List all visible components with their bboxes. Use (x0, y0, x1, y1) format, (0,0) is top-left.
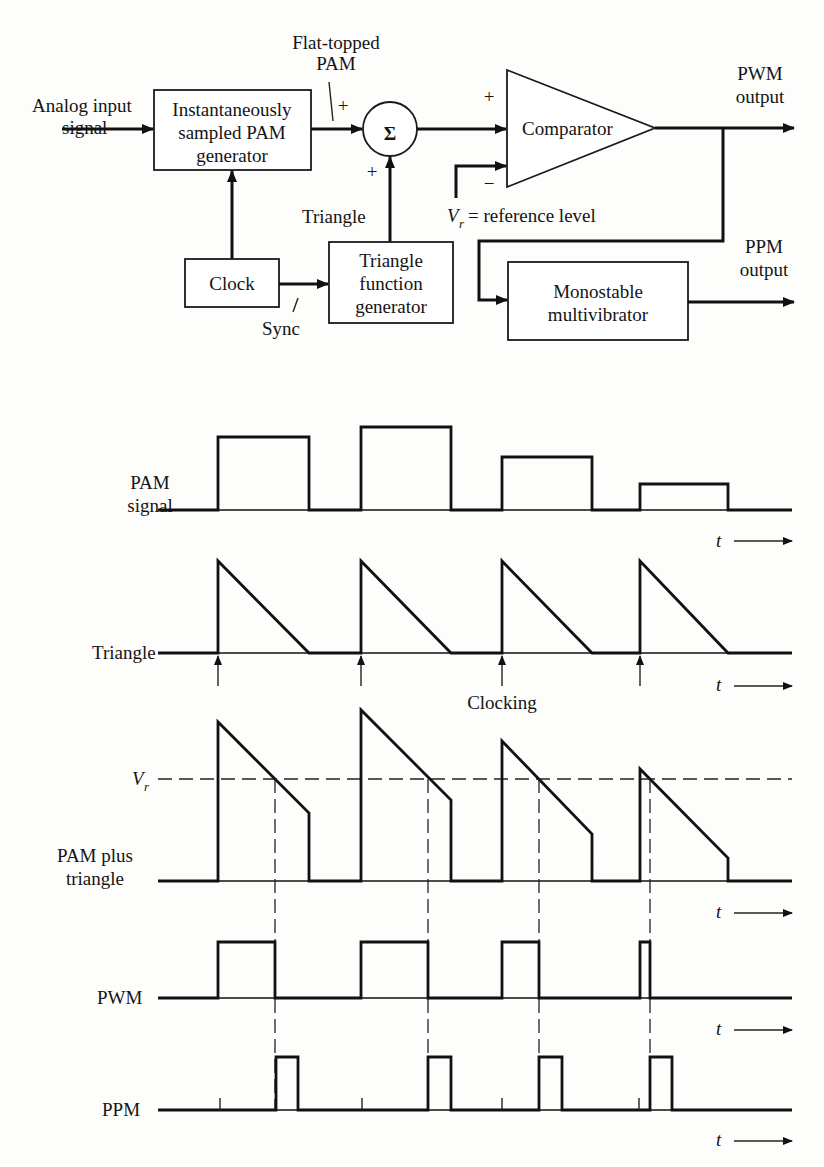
pwm-ppm-figure: Analog input signal Instantaneously samp… (0, 0, 824, 1167)
triangle-generator-block: Triangle function generator (329, 242, 453, 323)
ppm-output-label: PPM (745, 236, 783, 257)
clocking-label: Clocking (467, 692, 537, 713)
crossing-projection-lines (275, 779, 650, 1110)
triangle-gen-text-1: Triangle (359, 250, 423, 271)
pam-plus-triangle-waveform: V r PAM plus triangle t (57, 710, 792, 922)
flat-topped-pointer (329, 82, 333, 121)
time-label: t (716, 1018, 722, 1039)
ppm-output-label-2: output (740, 259, 789, 280)
ppm-waveform: PPM t (102, 1057, 792, 1150)
pwm-output-label: PWM (737, 63, 783, 84)
comparator-text: Comparator (522, 118, 613, 139)
comparator-block: Comparator (507, 70, 655, 187)
triangle-gen-text-3: generator (355, 296, 427, 317)
sync-pointer (293, 298, 298, 312)
pwm-output-label-2: output (736, 86, 785, 107)
pam-plus-label-2: triangle (66, 868, 124, 889)
ppm-label: PPM (102, 1099, 140, 1120)
pam-plus-label: PAM plus (57, 845, 133, 866)
flat-topped-label-2: PAM (316, 53, 356, 74)
pam-signal-waveform: PAM signal t (127, 427, 792, 551)
clock-text: Clock (209, 273, 255, 294)
time-label: t (716, 901, 722, 922)
pam-signal-label-2: signal (127, 495, 172, 516)
reference-level-label: = reference level (468, 205, 596, 226)
vr-subscript: r (459, 216, 465, 231)
time-label: t (716, 1129, 722, 1150)
comparator-plus: + (484, 86, 495, 107)
summer-plus-top: + (338, 95, 349, 116)
analog-input-label: Analog input (32, 95, 132, 116)
triangle-waveform: Triangle Clocking t (92, 561, 792, 713)
summer-block: Σ (363, 102, 417, 156)
block-diagram: Analog input signal Instantaneously samp… (32, 32, 794, 340)
time-label: t (716, 674, 722, 695)
flat-topped-label: Flat-topped (292, 32, 380, 53)
comparator-minus: − (484, 173, 495, 194)
time-label: t (716, 530, 722, 551)
triangle-signal-label: Triangle (302, 206, 366, 227)
vr-axis-subscript: r (144, 779, 150, 794)
summer-plus-bottom: + (367, 161, 378, 182)
sync-label: Sync (262, 318, 300, 339)
pwm-waveform: PWM t (97, 942, 792, 1039)
pam-generator-text-3: generator (196, 145, 268, 166)
monostable-text-2: multivibrator (548, 304, 649, 325)
triangle-gen-text-2: function (359, 273, 423, 294)
vr-to-comparator-arrow (456, 166, 506, 198)
waveforms: PAM signal t Triangle Clocking t V r PAM… (57, 427, 792, 1150)
triangle-label: Triangle (92, 642, 156, 663)
pam-generator-block: Instantaneously sampled PAM generator (154, 90, 311, 170)
pam-generator-text-2: sampled PAM (178, 122, 286, 143)
sigma-icon: Σ (384, 123, 396, 144)
monostable-text-1: Monostable (553, 281, 643, 302)
monostable-block: Monostable multivibrator (508, 262, 688, 340)
clock-block: Clock (185, 259, 279, 307)
pam-signal-label: PAM (130, 472, 170, 493)
pam-generator-text-1: Instantaneously (172, 99, 292, 120)
pwm-label: PWM (97, 987, 143, 1008)
